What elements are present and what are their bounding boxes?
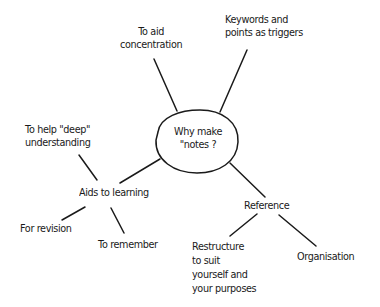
- leaf-deep-understanding-label: To help "deep" understanding: [25, 123, 103, 148]
- branch-aids-to-learning-label: Aids to learning: [79, 186, 162, 199]
- branch-concentration-label: To aid concentration: [118, 25, 184, 50]
- connector-aids-to-learning: [120, 159, 160, 183]
- connector-keywords: [220, 50, 247, 112]
- connector-concentration: [154, 59, 177, 111]
- connector-restructure: [230, 214, 257, 236]
- connector-revision: [62, 207, 85, 220]
- connector-deep-understanding: [79, 155, 97, 180]
- leaf-remember-label: To remember: [98, 238, 167, 251]
- branch-keywords-label: Keywords and points as triggers: [225, 13, 308, 38]
- connector-remember: [111, 208, 124, 233]
- leaf-organisation-label: Organisation: [297, 250, 366, 263]
- leaf-restructure-label: Restructure to suit yourself and your pu…: [192, 239, 266, 295]
- center-node-label: Why make "notes ?: [169, 125, 226, 150]
- branch-reference-label: Reference: [244, 199, 299, 212]
- connector-organisation: [279, 215, 316, 246]
- leaf-revision-label: For revision: [20, 222, 84, 235]
- connector-reference: [230, 163, 265, 197]
